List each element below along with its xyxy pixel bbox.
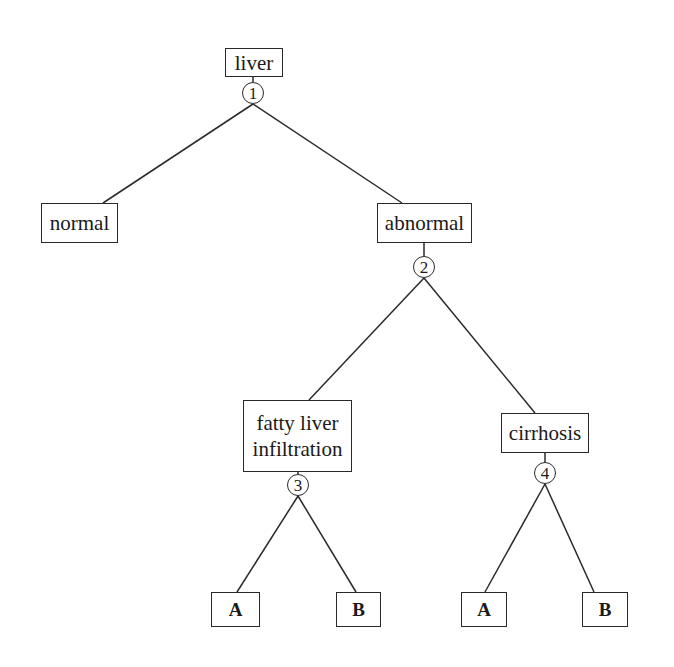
node-fatty-class-a: A [211,592,260,627]
edge-d4-a [485,484,545,592]
decision-point-1: 1 [242,82,264,104]
edge-d3-b [298,496,356,592]
edge-d1-abnormal [253,104,402,203]
node-normal-label: normal [50,211,109,235]
decision-point-2: 2 [413,256,435,278]
node-abnormal-label: abnormal [385,211,464,235]
decision-point-4: 4 [534,462,556,484]
node-cirrhosis-class-b: B [582,592,628,627]
node-abnormal: abnormal [377,203,472,243]
node-liver-label: liver [235,51,273,75]
node-cirrhosis-label: cirrhosis [509,421,581,445]
node-normal: normal [41,203,118,243]
node-cirrhosis-class-a: A [461,592,507,627]
node-fatty-label-line1: fatty liver [256,410,338,436]
edge-d4-b [545,484,594,592]
node-fatty-liver-infiltration: fatty liver infiltration [243,400,352,472]
node-cirrhosis: cirrhosis [501,413,589,453]
decision-point-3: 3 [287,474,309,496]
edge-d1-normal [103,104,253,203]
node-fatty-class-b: B [336,592,381,627]
edge-d2-cirrhosis [424,278,535,413]
decision-tree-figure: liver 1 normal abnormal 2 fatty liver in… [0,0,674,667]
edge-d2-fatty [309,278,424,400]
tree-edges [0,0,674,667]
node-fatty-label-line2: infiltration [253,436,343,462]
edge-d3-a [237,496,298,592]
node-liver: liver [225,48,283,77]
